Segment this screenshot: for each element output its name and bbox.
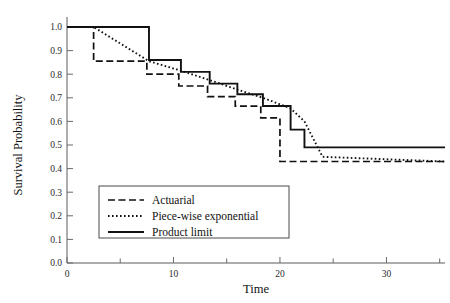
y-axis-title: Survival Probability — [11, 94, 25, 196]
legend-label-product-limit: Product limit — [152, 226, 213, 238]
x-tick-label: 20 — [275, 269, 285, 279]
data-series-group — [67, 27, 445, 162]
x-tick-label: 30 — [382, 269, 392, 279]
y-tick-label: 0.4 — [50, 164, 62, 174]
y-tick-label: 0.0 — [50, 258, 62, 268]
chart-legend: ActuarialPiece-wise exponentialProduct l… — [99, 186, 289, 238]
legend-label-actuarial: Actuarial — [152, 194, 195, 206]
survival-plot: 0.00.10.20.30.40.50.60.70.80.91.0 010203… — [0, 0, 450, 303]
legend-label-piece-wise-exponential: Piece-wise exponential — [152, 210, 258, 223]
y-tick-label: 0.7 — [50, 93, 62, 103]
y-tick-label: 0.1 — [50, 235, 62, 245]
series-product-limit — [67, 27, 445, 147]
y-tick-label: 0.5 — [50, 140, 62, 150]
y-tick-label: 0.6 — [50, 117, 62, 127]
y-tick-label: 1.0 — [50, 22, 62, 32]
y-tick-label: 0.8 — [50, 70, 62, 80]
y-tick-label: 0.2 — [50, 211, 62, 221]
y-tick-label: 0.9 — [50, 46, 62, 56]
x-tick-label: 10 — [169, 269, 179, 279]
x-axis-title: Time — [243, 282, 269, 296]
y-tick-label: 0.3 — [50, 188, 62, 198]
x-tick-label: 0 — [65, 269, 70, 279]
x-axis-ticks: 0102030 — [65, 257, 440, 279]
y-axis-ticks: 0.00.10.20.30.40.50.60.70.80.91.0 — [50, 22, 73, 268]
survival-probability-figure: 0.00.10.20.30.40.50.60.70.80.91.0 010203… — [0, 0, 450, 303]
